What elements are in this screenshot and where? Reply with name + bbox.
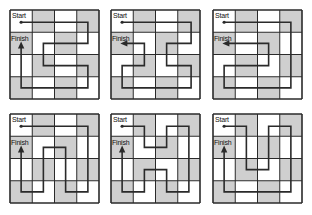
shaded-cell	[32, 114, 54, 136]
maze-3: Start Finish	[213, 10, 302, 99]
blank-cell	[55, 114, 77, 136]
blank-cell	[55, 10, 77, 32]
maze-grid	[111, 10, 200, 99]
start-dot-icon	[20, 125, 23, 128]
start-dot-icon	[223, 21, 226, 24]
start-dot-icon	[121, 21, 124, 24]
maze-4: Start Finish	[10, 114, 99, 203]
shaded-cell	[32, 10, 54, 32]
start-dot-icon	[121, 125, 124, 128]
blank-cell	[156, 10, 178, 32]
maze-grid	[111, 114, 200, 203]
maze-1: Start Finish	[10, 10, 99, 99]
maze-grid	[10, 10, 99, 99]
maze-6: Start Finish	[213, 114, 302, 203]
maze-grid	[213, 114, 302, 203]
maze-grid	[213, 10, 302, 99]
start-dot-icon	[223, 125, 226, 128]
maze-5: Start Finish	[111, 114, 200, 203]
maze-2: Start Finish	[111, 10, 200, 99]
blank-cell	[258, 10, 280, 32]
shaded-cell	[133, 10, 155, 32]
shaded-cell	[178, 10, 200, 32]
maze-grid	[10, 114, 99, 203]
shaded-cell	[235, 10, 257, 32]
start-dot-icon	[20, 21, 23, 24]
